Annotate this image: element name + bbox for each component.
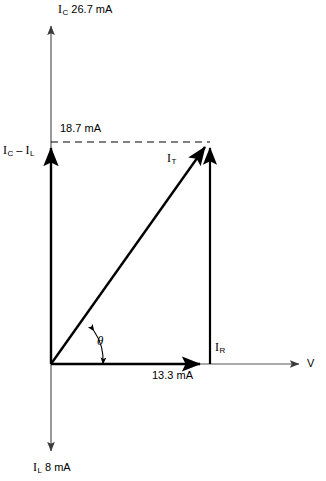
label-icil-symbol2: I — [26, 143, 30, 157]
label-icil-minus: – — [13, 144, 25, 156]
label-il-subscript: L — [37, 466, 42, 475]
phasor-it — [51, 147, 205, 364]
label-ir: IR — [215, 341, 225, 355]
label-icil-subscript2: L — [30, 149, 35, 158]
label-theta-symbol: θ — [97, 333, 103, 348]
label-ir-subscript: R — [219, 346, 225, 355]
label-it-subscript: T — [171, 157, 176, 166]
label-il-value: 8 mA — [45, 461, 71, 473]
label-resistive-value: 13.3 mA — [152, 370, 193, 381]
label-il-bottom: IL 8 mA — [33, 461, 71, 475]
phasor-diagram-canvas — [0, 0, 326, 481]
label-v-axis: V — [307, 358, 314, 369]
label-ic-top: IC 26.7 mA — [58, 3, 112, 17]
label-ic-value: 26.7 mA — [71, 3, 112, 15]
phasor-diagram-figure: IC 26.7 mA IC – IL 18.7 mA IT IR 13.3 mA… — [0, 0, 326, 481]
label-it: IT — [167, 152, 176, 166]
label-theta: θ — [97, 334, 103, 347]
label-ic-subscript: C — [62, 8, 68, 17]
label-reactive-value: 18.7 mA — [60, 123, 101, 134]
label-ic-minus-il: IC – IL — [3, 144, 34, 158]
